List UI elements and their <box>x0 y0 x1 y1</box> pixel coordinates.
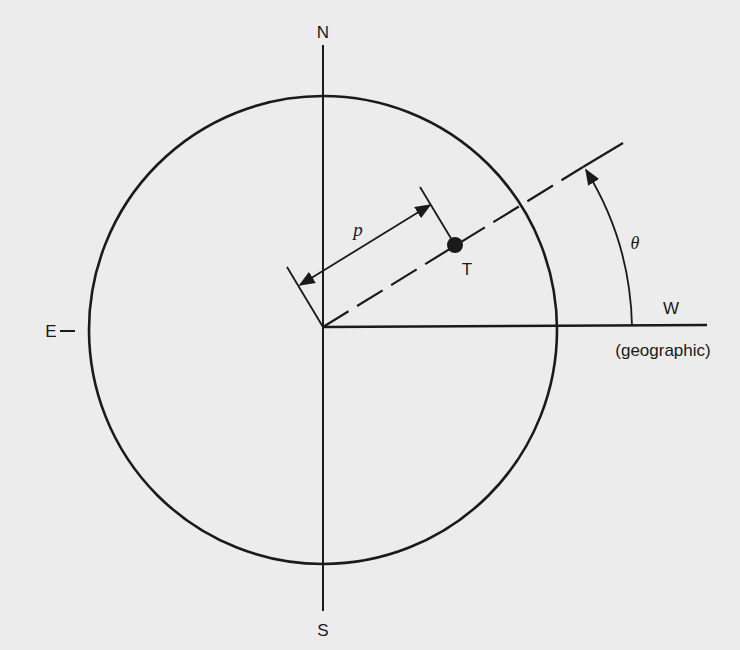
south-label: S <box>317 621 328 640</box>
polar-coordinate-diagram: N S E W (geographic) T p θ <box>0 0 740 650</box>
target-label: T <box>462 260 472 279</box>
distance-label: p <box>351 219 363 240</box>
west-geographic-note: (geographic) <box>615 341 710 360</box>
west-label: W <box>663 299 679 318</box>
angle-label: θ <box>631 233 640 253</box>
north-label: N <box>317 23 329 42</box>
east-label: E <box>45 322 56 341</box>
target-point-icon <box>447 237 463 253</box>
diagram-stage: N S E W (geographic) T p θ <box>0 0 740 650</box>
